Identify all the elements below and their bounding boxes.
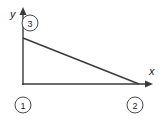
node-marker-3: 3: [22, 15, 38, 31]
y-axis-arrow-icon: [20, 7, 27, 15]
x-axis-arrow-icon: [145, 81, 153, 88]
y-axis-label: y: [9, 8, 17, 20]
x-axis-label: x: [148, 65, 155, 77]
diagram-canvas: y x 1 2 3: [0, 0, 163, 120]
node-2-label: 2: [132, 101, 137, 111]
node-marker-2: 2: [127, 97, 143, 113]
geometry-diagram: y x 1 2 3: [0, 0, 163, 120]
node-3-label: 3: [27, 19, 32, 29]
node-1-label: 1: [20, 101, 25, 111]
hypotenuse-line: [23, 38, 139, 84]
node-marker-1: 1: [15, 97, 31, 113]
